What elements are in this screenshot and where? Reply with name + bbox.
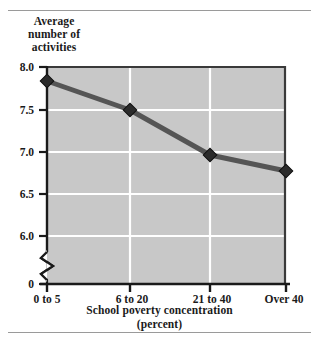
plot-area: 8.0 7.5 7.0 6.5 6.0 0 0 to 5 6 to 20 21 … <box>0 0 319 346</box>
y-tick-label-7-0: 7.0 <box>20 146 35 158</box>
y-tick-label-6-0: 6.0 <box>20 230 35 242</box>
y-tick-label-8-0: 8.0 <box>20 61 35 73</box>
x-axis-title-line-2: (percent) <box>20 318 299 332</box>
x-axis-title-line-1: School poverty concentration <box>20 304 299 318</box>
x-axis-title: School poverty concentration (percent) <box>20 304 299 331</box>
y-tick-label-0: 0 <box>28 278 34 290</box>
y-tick-label-6-5: 6.5 <box>20 188 35 200</box>
chart-figure: Average number of activities <box>0 0 319 346</box>
plot-background <box>46 66 286 283</box>
y-tick-label-7-5: 7.5 <box>20 104 35 116</box>
